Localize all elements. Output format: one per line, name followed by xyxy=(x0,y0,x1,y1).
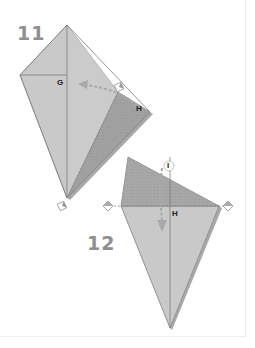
instruction-page: 11 G H 12 I H xyxy=(0,0,246,337)
label-i: I xyxy=(167,161,169,170)
step-number-11: 11 xyxy=(17,22,45,44)
step-12-kite xyxy=(103,157,233,330)
label-h-step12: H xyxy=(172,209,178,218)
fold-diagram xyxy=(0,0,255,348)
step-number-12: 12 xyxy=(87,232,115,254)
pivot-marker-right xyxy=(223,201,233,211)
pivot-marker-left xyxy=(103,201,113,211)
label-h-step11: H xyxy=(136,104,142,113)
pivot-marker-bottom xyxy=(56,200,69,213)
label-g: G xyxy=(57,78,63,87)
